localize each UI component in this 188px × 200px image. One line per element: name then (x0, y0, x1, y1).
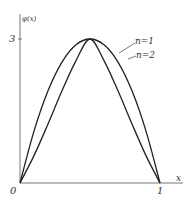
x-tick-label-1: 1 (157, 186, 163, 196)
y-axis-label: φ(x) (22, 16, 36, 23)
leader-n1 (119, 43, 135, 53)
chart-canvas (0, 0, 188, 200)
legend-n1: n=1 (135, 37, 154, 46)
leader-n2 (128, 56, 136, 59)
origin-label: 0 (10, 186, 16, 196)
legend-n2: n=2 (136, 51, 155, 60)
curve-n1 (20, 39, 160, 183)
y-tick-label-3: 3 (9, 34, 15, 44)
x-axis-label: x (176, 174, 181, 183)
